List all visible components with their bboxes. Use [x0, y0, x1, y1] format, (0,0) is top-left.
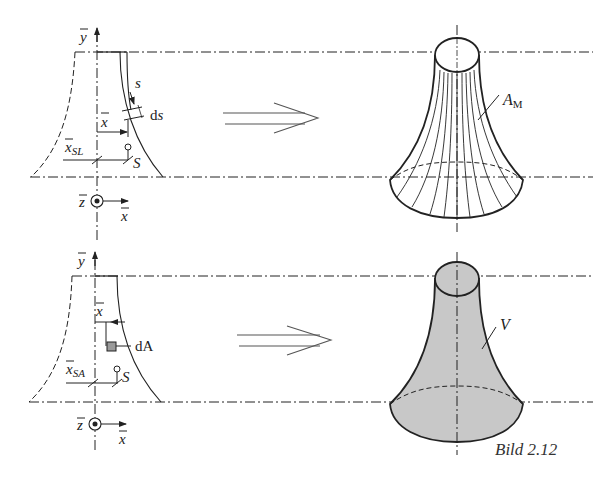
mirror-profile-curve — [29, 276, 72, 402]
centroid-distance-label: xSA — [65, 361, 85, 379]
figure-caption: Bild 2.12 — [495, 440, 558, 459]
x-distance-arrow-icon — [110, 319, 118, 325]
bottom-transform-arrow-icon — [237, 326, 331, 355]
centroid-label: S — [122, 369, 130, 385]
s-arrow-icon — [130, 92, 134, 104]
element-ds-label: ds — [150, 107, 164, 123]
mirror-profile-curve — [31, 52, 75, 177]
arc-length-label: s — [135, 75, 141, 91]
centroid-distance-label: xSL — [64, 139, 83, 157]
top-transform-arrow-icon — [223, 103, 318, 133]
volume-label: V — [500, 316, 512, 333]
z-axis-label: z — [78, 194, 85, 210]
area-element-icon — [107, 342, 116, 351]
solid-of-revolution: V — [390, 252, 523, 455]
element-da-label: dA — [135, 338, 154, 354]
centroid-marker-icon — [125, 144, 131, 150]
centroid-marker-icon — [114, 366, 120, 372]
surface-area-label: AM — [502, 91, 523, 110]
x-distance-label: x — [95, 303, 103, 319]
centroid-label: S — [133, 155, 141, 171]
y-axis-label: y — [78, 29, 87, 45]
surface-of-revolution: AM — [390, 25, 523, 232]
z-axis-label: z — [76, 417, 83, 433]
diagram-canvas: y s ds x xSL S — [0, 0, 593, 480]
x-distance-label: x — [100, 114, 108, 130]
x-axis-label: x — [120, 208, 128, 224]
top-cross-section: y s ds x xSL S — [30, 28, 593, 240]
y-axis-label: y — [76, 253, 85, 269]
x-axis-label: x — [118, 431, 126, 447]
